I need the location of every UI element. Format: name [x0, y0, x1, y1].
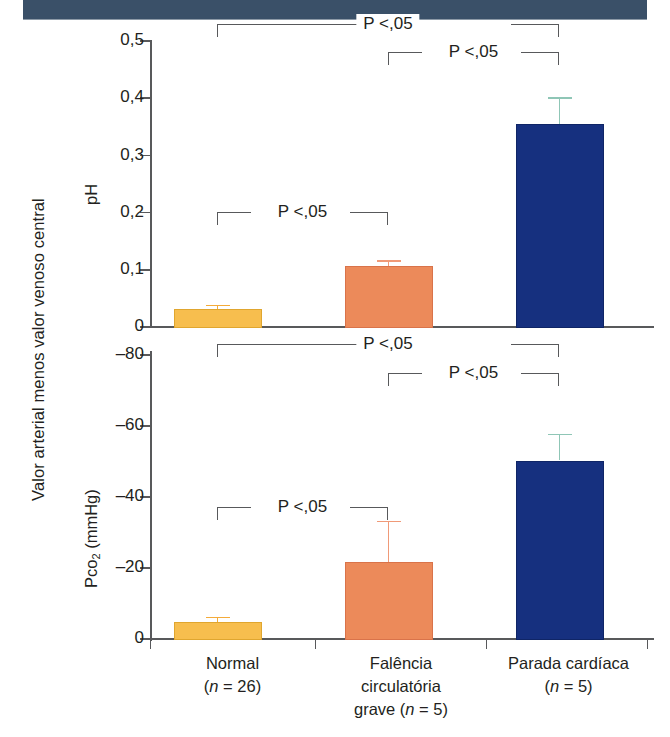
ph-tick-label-0.2: 0,2 [120, 202, 144, 222]
ph-panel: 0,5 0,4 0,3 0,2 0,1 0 [150, 40, 650, 328]
sig-bracket-pco2-normal-parada: P <,05 [217, 334, 559, 356]
outer-y-axis-title: Valor arterial menos valor venoso centra… [29, 115, 48, 585]
bar-ph-falencia[interactable] [345, 266, 433, 328]
sig-label-ph-normal-falencia: P <,05 [271, 202, 334, 222]
pco2-tick-label--80: –80 [116, 344, 144, 364]
ph-tick-label-0.1: 0,1 [120, 259, 144, 279]
x-category-parada-line1: Parada cardíaca [487, 652, 650, 675]
x-axis-tick-1 [315, 638, 316, 649]
bar-pco2-falencia[interactable] [345, 562, 433, 640]
sig-label-ph-normal-parada: P <,05 [356, 14, 419, 34]
x-category-falencia-line2: circulatória [316, 675, 486, 698]
pco2-panel-y-axis-label: Pco2 (mmHg) [82, 489, 101, 588]
sig-label-ph-falencia-parada: P <,05 [442, 42, 505, 62]
ph-y-axis-line [150, 40, 152, 328]
x-category-normal-line2: (n = 26) [150, 675, 315, 698]
bar-pco2-normal[interactable] [174, 622, 262, 640]
sig-label-pco2-normal-parada: P <,05 [356, 334, 419, 354]
sig-bracket-pco2-falencia-parada: P <,05 [388, 363, 559, 385]
x-axis-category-labels: Normal (n = 26) Falência circulatória gr… [150, 652, 650, 737]
pco2-tick-label-0: 0 [135, 628, 144, 648]
sig-label-pco2-falencia-parada: P <,05 [442, 363, 505, 383]
x-axis-tick-2 [486, 638, 487, 649]
pco2-panel: –80 –60 –40 –20 0 [150, 351, 650, 641]
ph-panel-y-axis-label: pH [82, 184, 101, 205]
pco2-tick-label--40: –40 [116, 486, 144, 506]
x-category-falencia-line1: Falência [316, 652, 486, 675]
x-category-falencia-line3: grave (n = 5) [316, 698, 486, 721]
pco2-label-base: Pco [82, 560, 100, 588]
x-axis-tick-start [150, 638, 151, 649]
pco2-label-subscript: 2 [90, 553, 102, 559]
pco2-y-axis-line [150, 351, 152, 641]
sig-bracket-ph-falencia-parada: P <,05 [388, 42, 559, 64]
pco2-tick-label--20: –20 [116, 557, 144, 577]
ph-tick-label-0: 0 [135, 316, 144, 336]
ph-tick-label-0.3: 0,3 [120, 145, 144, 165]
pco2-tick-label--60: –60 [116, 415, 144, 435]
x-category-normal-line1: Normal [150, 652, 315, 675]
x-category-falencia: Falência circulatória grave (n = 5) [316, 652, 486, 721]
figure-container: Valor arterial menos valor venoso centra… [0, 0, 670, 737]
bar-ph-parada[interactable] [516, 124, 604, 328]
pco2-label-units: (mmHg) [82, 489, 100, 553]
x-axis-tick-end [647, 638, 648, 649]
sig-bracket-ph-normal-parada: P <,05 [217, 14, 559, 36]
sig-label-pco2-normal-falencia: P <,05 [271, 497, 334, 517]
x-category-parada-line2: (n = 5) [487, 675, 650, 698]
bar-pco2-parada[interactable] [516, 461, 604, 641]
x-category-normal: Normal (n = 26) [150, 652, 315, 698]
ph-tick-label-0.5: 0,5 [120, 30, 144, 50]
bar-ph-normal[interactable] [174, 309, 262, 329]
sig-bracket-pco2-normal-falencia: P <,05 [217, 497, 388, 519]
ph-tick-label-0.4: 0,4 [120, 87, 144, 107]
x-category-parada: Parada cardíaca (n = 5) [487, 652, 650, 698]
sig-bracket-ph-normal-falencia: P <,05 [217, 202, 388, 224]
